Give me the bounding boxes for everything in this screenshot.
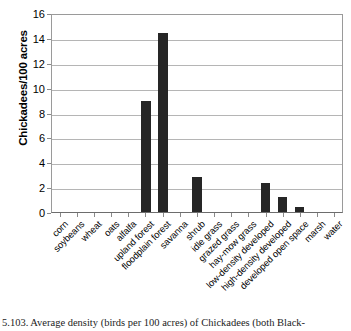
y-axis-tick-label: 14 [5,33,45,44]
bar-slot [189,15,206,212]
bar-slot [120,15,137,212]
y-axis-tick-label: 16 [5,9,45,20]
bar-slot [69,15,86,212]
bar-slot [206,15,223,212]
chart-figure: Chickadees/100 acres 1614121086420 corns… [0,0,351,331]
bar-series [52,15,342,212]
y-axis-tick-mark [47,14,51,15]
bar [141,101,151,212]
y-axis-tick-label: 8 [5,108,45,119]
bar-slot [223,15,240,212]
bar [158,33,168,212]
bar-slot [137,15,154,212]
bar [295,207,305,212]
bar-slot [240,15,257,212]
bar-slot [325,15,342,212]
y-axis-tick-label: 2 [5,183,45,194]
bar-slot [103,15,120,212]
y-axis-tick-label: 12 [5,58,45,69]
y-axis-tick-mark [47,138,51,139]
y-axis-tick-mark [47,64,51,65]
figure-caption: 5.103. Average density (birds per 100 ac… [2,317,351,329]
y-axis-tick-label: 0 [5,208,45,219]
bar-slot [291,15,308,212]
bar-slot [52,15,69,212]
x-axis-category-labels: cornsoybeanswheatoatsalfalfaupland fores… [51,217,343,317]
y-axis-tick-label: 6 [5,133,45,144]
y-axis-tick-mark [47,39,51,40]
y-axis-tick-mark [47,163,51,164]
y-axis-tick-label: 4 [5,158,45,169]
bar [192,177,202,212]
y-axis-tick-mark [47,188,51,189]
bar-slot [274,15,291,212]
plot-area [51,14,343,213]
bar [261,183,271,212]
bar-slot [171,15,188,212]
y-axis-tick-mark [47,89,51,90]
y-axis-tick-label: 10 [5,83,45,94]
bar [278,197,288,212]
bar-slot [257,15,274,212]
bar-slot [308,15,325,212]
y-axis-tick-mark [47,114,51,115]
bar-slot [154,15,171,212]
x-axis-category-label: water [322,219,345,242]
bar-slot [86,15,103,212]
